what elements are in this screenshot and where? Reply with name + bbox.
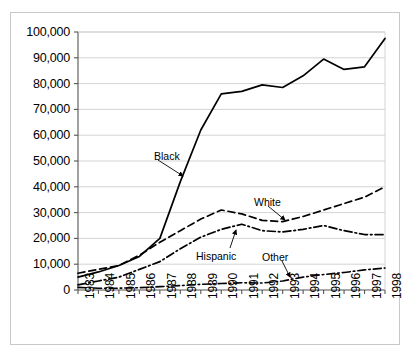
x-axis-tick-label: 1983 [83, 273, 97, 299]
x-axis-tick-label: 1991 [247, 273, 261, 299]
series-label-white: White [254, 196, 281, 208]
x-axis-tick-label: 1995 [329, 273, 343, 299]
series-label-black: Black [154, 150, 180, 162]
series-label-other: Other [262, 251, 288, 263]
x-axis-tick-label: 1990 [226, 273, 240, 299]
x-axis-tick-label: 1993 [288, 273, 302, 299]
series-label-hispanic: Hispanic [196, 250, 236, 262]
x-axis-tick-label: 1988 [185, 273, 199, 299]
x-axis-tick-label: 1985 [124, 273, 138, 299]
x-axis-tick-label: 1992 [267, 273, 281, 299]
x-axis-tick-label: 1987 [165, 273, 179, 299]
x-axis-tick-label: 1994 [308, 273, 322, 299]
x-axis-tick-label: 1984 [103, 273, 117, 299]
x-axis-tick-label: 1986 [144, 273, 158, 299]
x-axis-tick-label: 1989 [206, 273, 220, 299]
chart-figure: 010,00020,00030,00040,00050,00060,00070,… [0, 0, 412, 358]
x-axis-tick-label: 1997 [370, 273, 384, 299]
x-axis-tick-label: 1996 [349, 273, 363, 299]
x-axis-labels: 1983198419851986198719881989199019911992… [0, 0, 412, 358]
x-axis-tick-label: 1998 [390, 273, 404, 299]
